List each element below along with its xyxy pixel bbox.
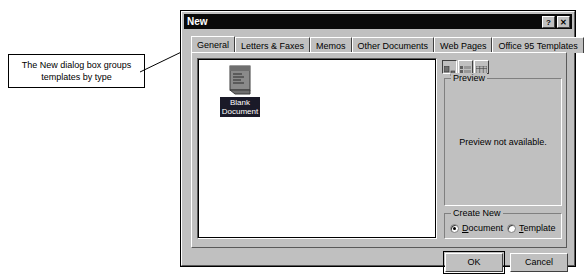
callout-box: The New dialog box groups templates by t… [8,54,145,88]
right-column: Preview Preview not available. Create Ne… [442,58,562,239]
tab-strip: General Letters & Faxes Memos Other Docu… [191,36,565,53]
help-button[interactable]: ? [542,16,555,28]
details-view-button[interactable] [474,60,489,74]
cancel-button[interactable]: Cancel [510,253,568,272]
callout-text: The New dialog box groups templates by t… [9,59,144,83]
tab-web-pages[interactable]: Web Pages [434,37,492,53]
ok-button[interactable]: OK [445,253,503,272]
tab-letters-and-faxes[interactable]: Letters & Faxes [235,37,310,53]
create-new-groupbox: Create New Document Template [444,213,562,239]
list-item-blank-document[interactable]: Blank Document [213,65,267,118]
blank-document-icon [226,65,254,95]
radio-document-label: Document [462,223,503,233]
create-new-group-label: Create New [451,208,503,218]
template-list-panel[interactable]: Blank Document [197,58,437,239]
list-item-label-line2: Document [222,107,258,116]
list-item-label-line1: Blank [230,98,250,107]
tab-general[interactable]: General [191,36,235,53]
preview-groupbox: Preview Preview not available. [444,78,562,206]
radio-create-new-document[interactable]: Document [450,223,503,233]
tab-page-general: Blank Document [191,52,567,248]
close-button[interactable]: ✕ [557,16,570,28]
radio-template-mark[interactable] [507,224,516,233]
preview-message: Preview not available. [445,137,561,147]
radio-create-new-template[interactable]: Template [507,223,556,233]
radio-template-label: Template [519,223,556,233]
dialog-title: New [184,16,208,27]
radio-document-mark[interactable] [450,224,459,233]
large-icons-view-button[interactable] [442,60,457,74]
tab-office-95-templates[interactable]: Office 95 Templates [492,37,583,53]
preview-group-label: Preview [451,73,487,83]
dialog-titlebar[interactable]: New ? ✕ [184,14,572,29]
view-toolbar [442,60,489,74]
list-view-button[interactable] [458,60,473,74]
new-dialog-window: New ? ✕ General Letters & Faxes Memos Ot… [181,11,575,266]
tab-other-documents[interactable]: Other Documents [352,37,435,53]
tab-memos[interactable]: Memos [310,37,352,53]
list-item-label: Blank Document [220,97,260,117]
titlebar-button-group: ? ✕ [542,16,572,28]
